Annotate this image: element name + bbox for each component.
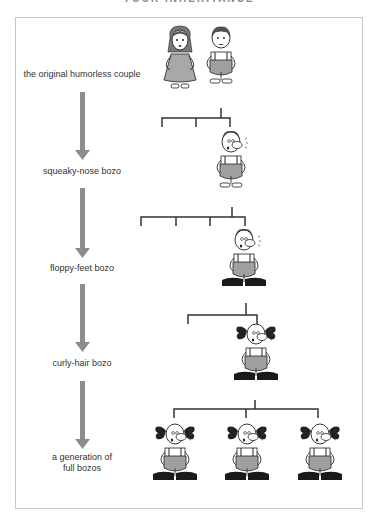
full-bozo-3 (298, 424, 342, 480)
full-bozo-1 (153, 424, 197, 480)
arrow-1 (75, 92, 90, 160)
man-figure (207, 27, 235, 83)
bracket-4 (174, 400, 318, 418)
inheritance-diagram (0, 0, 378, 524)
squeaky-nose-bozo (217, 131, 248, 187)
floppy-feet-bozo (222, 229, 266, 286)
arrow-3 (75, 284, 90, 352)
bracket-2 (141, 207, 245, 226)
arrow-4 (75, 381, 90, 449)
full-bozo-2 (225, 424, 269, 480)
arrow-2 (75, 188, 90, 258)
curly-hair-bozo (234, 324, 278, 380)
bracket-3 (188, 303, 257, 324)
woman-figure (164, 26, 196, 88)
bracket-1 (162, 108, 230, 127)
